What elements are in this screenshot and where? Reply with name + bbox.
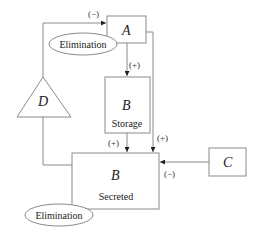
elimination-bottom-label: Elimination (35, 210, 82, 221)
node-b-storage-label: B (122, 98, 131, 113)
edge-secreted-to-d (43, 117, 72, 165)
elimination-top: Elimination (49, 33, 117, 55)
node-d: D (17, 77, 71, 117)
elimination-top-label: Elimination (59, 39, 106, 50)
edge-d-to-a-sign: (−) (88, 9, 99, 19)
node-c: C (209, 148, 246, 176)
node-a-label: A (121, 23, 131, 38)
feedback-diagram: (−) (+) (+) (+) (−) A Elimination B Stor… (0, 0, 258, 238)
node-c-label: C (223, 155, 233, 170)
elimination-bottom: Elimination (25, 204, 93, 226)
node-b-storage-sublabel: Storage (112, 118, 143, 129)
edge-c-to-secreted-sign: (−) (164, 169, 175, 179)
node-b-secreted: B Secreted (72, 153, 159, 209)
node-b-storage: B Storage (105, 77, 150, 133)
node-b-secreted-sublabel: Secreted (99, 191, 133, 202)
edge-a-to-secreted-sign: (+) (157, 133, 168, 143)
node-b-secreted-label: B (111, 168, 120, 183)
edge-storage-to-secreted-sign: (+) (108, 138, 119, 148)
node-d-label: D (37, 94, 48, 109)
edge-a-to-storage-sign: (+) (129, 60, 140, 70)
